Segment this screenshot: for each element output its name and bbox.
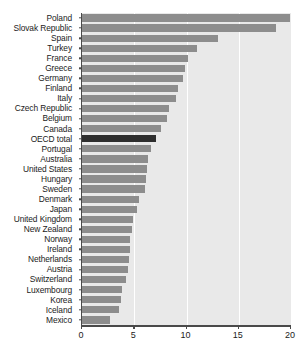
x-tick-label-10: 10 [180, 331, 190, 340]
category-tick [79, 299, 83, 300]
x-tick-0 [81, 325, 82, 329]
bar-oecd-total [82, 135, 156, 142]
category-tick [79, 98, 83, 99]
category-label-netherlands: Netherlands [0, 255, 76, 265]
bar-greece [82, 65, 185, 72]
bar-portugal [82, 145, 151, 152]
bar-czech-republic [82, 105, 169, 112]
category-tick [79, 198, 83, 199]
category-tick [79, 249, 83, 250]
category-label-belgium: Belgium [0, 114, 76, 124]
category-tick [79, 229, 83, 230]
bar-slovak-republic [82, 24, 276, 31]
category-tick [79, 209, 83, 210]
bar-row [82, 53, 291, 63]
category-label-united-states: United States [0, 164, 76, 174]
category-tick [79, 108, 83, 109]
bar-norway [82, 236, 130, 243]
category-tick [79, 239, 83, 240]
bar-row [82, 23, 291, 33]
bar-denmark [82, 196, 139, 203]
category-label-finland: Finland [0, 83, 76, 93]
bar-row [82, 104, 291, 114]
bar-row [82, 265, 291, 275]
category-axis-labels: PolandSlovak RepublicSpainTurkeyFranceGr… [0, 13, 76, 325]
bar-ireland [82, 246, 130, 253]
bar-united-kingdom [82, 216, 133, 223]
category-label-united-kingdom: United Kingdom [0, 214, 76, 224]
bar-row [82, 83, 291, 93]
x-tick-15 [238, 325, 239, 329]
category-label-norway: Norway [0, 234, 76, 244]
bar-row [82, 13, 291, 23]
bar-row [82, 144, 291, 154]
category-tick [79, 148, 83, 149]
bar-chart: PolandSlovak RepublicSpainTurkeyFranceGr… [0, 0, 308, 360]
bar-row [82, 154, 291, 164]
category-label-iceland: Iceland [0, 305, 76, 315]
category-label-turkey: Turkey [0, 43, 76, 53]
category-label-new-zealand: New Zealand [0, 224, 76, 234]
bar-row [82, 194, 291, 204]
bar-canada [82, 125, 161, 132]
bar-austria [82, 266, 128, 273]
bar-poland [82, 14, 290, 21]
bar-mexico [82, 316, 110, 323]
category-tick [79, 58, 83, 59]
bar-korea [82, 296, 121, 303]
bar-belgium [82, 115, 167, 122]
bar-germany [82, 75, 183, 82]
bars-container [82, 13, 291, 325]
category-label-czech-republic: Czech Republic [0, 104, 76, 114]
bar-row [82, 255, 291, 265]
category-label-poland: Poland [0, 13, 76, 23]
bar-sweden [82, 185, 145, 192]
x-tick-label-15: 15 [233, 331, 243, 340]
category-label-italy: Italy [0, 94, 76, 104]
category-tick [79, 279, 83, 280]
bar-luxembourg [82, 286, 122, 293]
bar-australia [82, 155, 148, 162]
category-label-austria: Austria [0, 265, 76, 275]
category-label-slovak-republic: Slovak Republic [0, 23, 76, 33]
bar-italy [82, 95, 176, 102]
bar-row [82, 285, 291, 295]
bar-row [82, 214, 291, 224]
bar-row [82, 244, 291, 254]
bar-row [82, 174, 291, 184]
category-label-denmark: Denmark [0, 194, 76, 204]
category-label-japan: Japan [0, 204, 76, 214]
category-label-oecd-total: OECD total [0, 134, 76, 144]
bar-row [82, 275, 291, 285]
bar-hungary [82, 175, 146, 182]
bar-spain [82, 35, 218, 42]
x-tick-label-5: 5 [131, 331, 136, 340]
category-tick [79, 68, 83, 69]
bar-row [82, 94, 291, 104]
bar-row [82, 234, 291, 244]
x-tick-20 [290, 325, 291, 329]
category-label-mexico: Mexico [0, 315, 76, 325]
bar-france [82, 55, 188, 62]
bar-row [82, 315, 291, 325]
category-tick [79, 88, 83, 89]
bar-japan [82, 206, 137, 213]
category-tick [79, 269, 83, 270]
category-tick [79, 178, 83, 179]
bar-iceland [82, 306, 119, 313]
category-tick [79, 158, 83, 159]
bar-finland [82, 85, 178, 92]
category-label-luxembourg: Luxembourg [0, 285, 76, 295]
category-label-switzerland: Switzerland [0, 275, 76, 285]
bar-row [82, 43, 291, 53]
category-label-korea: Korea [0, 295, 76, 305]
bar-row [82, 124, 291, 134]
bar-row [82, 224, 291, 234]
bar-row [82, 63, 291, 73]
category-tick [79, 48, 83, 49]
bar-new-zealand [82, 226, 132, 233]
x-tick-5 [133, 325, 134, 329]
category-tick [79, 319, 83, 320]
x-tick-label-0: 0 [78, 331, 83, 340]
category-tick [79, 118, 83, 119]
